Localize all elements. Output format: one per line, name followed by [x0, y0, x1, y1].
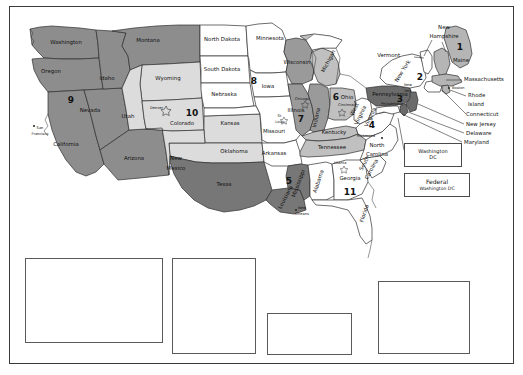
city-label: San	[37, 126, 44, 130]
state-label: North	[369, 142, 384, 148]
state-label: Nebraska	[211, 91, 236, 97]
city-label: New	[404, 83, 412, 87]
city-label: Orleans	[295, 212, 309, 216]
state-label: Mexico	[167, 165, 186, 171]
state-label: Connecticut	[466, 111, 498, 117]
pacific-inset-box	[172, 258, 256, 354]
state-label: Missouri	[263, 128, 285, 134]
state-label: Minnesota	[256, 35, 284, 41]
city-label: Cincinnati	[338, 103, 356, 107]
state-label: Nevada	[80, 107, 101, 113]
state-label: Maine	[453, 57, 470, 63]
state-label: Colorado	[170, 120, 194, 126]
city-label: Chicago	[295, 97, 309, 101]
virgin-islands-inset-box	[378, 281, 470, 354]
state-label: Kentucky	[322, 129, 347, 136]
city-label: New	[298, 206, 306, 210]
state-label: Utah	[122, 113, 135, 119]
state-label: Iowa	[262, 83, 275, 89]
state-label: Hampshire	[429, 33, 459, 40]
circuit-number: 1	[457, 42, 463, 52]
state-label: North Dakota	[204, 36, 240, 42]
city-label: York	[404, 89, 412, 93]
state-label: South Dakota	[204, 66, 240, 72]
circuit-number: 11	[344, 187, 357, 197]
circuit-number: 2	[417, 72, 423, 82]
alaska-inset-box	[25, 258, 163, 343]
state-label: Island	[468, 101, 484, 107]
state-label: Wisconsin	[284, 59, 311, 65]
state-label: California	[53, 141, 79, 147]
city-label: Francisco	[32, 132, 49, 136]
circuit-number: 10	[186, 108, 199, 118]
washington-dc-box: Washington DC	[404, 143, 462, 167]
state-label: Montana	[136, 37, 160, 43]
circuit-number: 5	[286, 176, 292, 186]
state-label: Arizona	[124, 155, 144, 161]
circuit-number: 9	[68, 95, 74, 105]
state-label: Rhode	[468, 92, 486, 98]
circuit-number: 6	[333, 92, 339, 102]
state-label: Tennessee	[317, 144, 347, 150]
city-label: Boston	[452, 86, 464, 90]
state-label: Ohio	[341, 94, 353, 100]
state-label: Idaho	[99, 75, 114, 81]
state-label: Maryland	[464, 139, 489, 146]
puerto-rico-inset-box	[267, 313, 352, 355]
state-label: Carolina	[366, 151, 388, 157]
washington-dc-line2: DC	[429, 155, 436, 161]
federal-dc-line1: Federal	[426, 179, 448, 186]
circuit-number: 3	[397, 94, 403, 104]
circuit-number: 8	[251, 76, 257, 86]
state-label: Massachusetts	[464, 76, 504, 82]
federal-dc-line2: Washington DC	[419, 186, 454, 191]
circuit-number: 4	[369, 120, 375, 130]
city-label: St.	[278, 114, 283, 118]
state-label: Oklahoma	[220, 148, 247, 154]
city-label: Richmond	[357, 134, 375, 138]
state-label: Illinois	[287, 107, 304, 113]
state-label: Delaware	[466, 130, 492, 136]
state-label: New	[438, 24, 450, 30]
circuit-number: 7	[298, 114, 304, 124]
state-label: New	[170, 155, 182, 161]
federal-washington-dc-box: Federal Washington DC	[404, 173, 470, 197]
state-label: Texas	[216, 181, 232, 187]
state-label: Georgia	[339, 175, 360, 182]
state-label: Kansas	[220, 120, 239, 126]
state-label: Washington	[50, 39, 82, 46]
map-stage: .s { stroke:#2f2f2f; stroke-width:0.7; s…	[0, 0, 523, 375]
state-label: New Jersey	[466, 121, 497, 128]
state-label: Wyoming	[155, 75, 180, 82]
city-label: Atlanta	[334, 161, 347, 165]
state-label: Vermont	[377, 52, 400, 58]
state-label: Arkansas	[262, 150, 287, 156]
state-label: Oregon	[41, 68, 61, 75]
